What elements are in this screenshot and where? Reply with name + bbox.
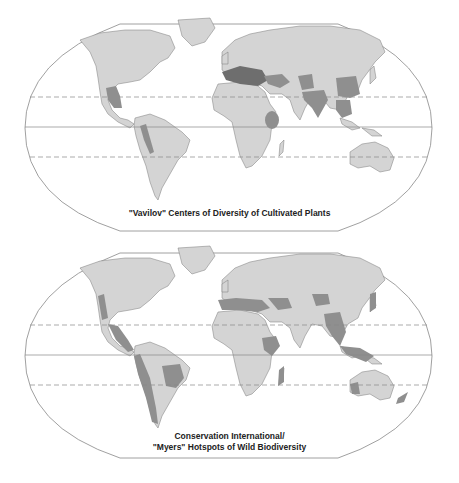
center-china [336,76,360,98]
map-myers: Conservation International/ "Myers" Hots… [0,240,459,483]
caption-myers-line2: "Myers" Hotspots of Wild Biodiversity [0,442,459,453]
map-vavilov: "Vavilov" Centers of Diversity of Cultiv… [0,0,459,240]
caption-vavilov: "Vavilov" Centers of Diversity of Cultiv… [0,208,459,219]
center-ethiopia [265,111,279,129]
caption-myers-line1: Conservation International/ [0,431,459,442]
world-map-vavilov [0,0,459,240]
